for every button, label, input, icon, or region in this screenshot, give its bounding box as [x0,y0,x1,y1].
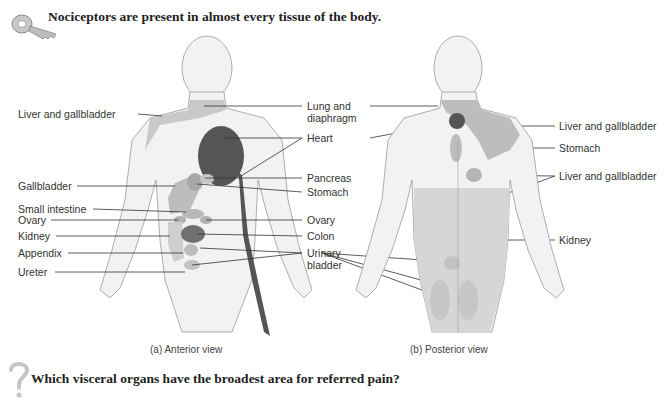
label-gallbladder: Gallbladder [18,180,72,192]
caption-posterior: (b) Posterior view [410,344,488,355]
question-mark-icon [6,360,32,400]
question-text: Which visceral organs have the broadest … [31,371,400,387]
label-liver-gallbladder-anterior: Liver and gallbladder [18,108,115,120]
label-kidney-posterior: Kidney [559,234,591,246]
label-pancreas: Pancreas [307,172,351,184]
anterior-body [100,36,312,332]
label-stomach-posterior: Stomach [559,142,600,154]
label-appendix: Appendix [18,247,62,259]
label-ovary-left: Ovary [18,214,46,226]
caption-anterior: (a) Anterior view [150,344,222,355]
label-kidney-anterior: Kidney [18,230,50,242]
label-lung: Lung and [307,100,351,112]
label-stomach-anterior: Stomach [307,186,348,198]
label-heart: Heart [307,132,333,144]
label-colon: Colon [307,230,334,242]
referred-pain-figure [0,0,669,402]
label-diaphragm: diaphragm [307,112,357,124]
label-urinary: Urinary [307,247,341,259]
label-bladder: bladder [307,259,342,271]
label-ovary-right: Ovary [307,214,335,226]
label-liver-gallbladder-posterior-2: Liver and gallbladder [559,170,656,182]
label-liver-gallbladder-posterior-1: Liver and gallbladder [559,120,656,132]
label-ureter: Ureter [18,266,47,278]
